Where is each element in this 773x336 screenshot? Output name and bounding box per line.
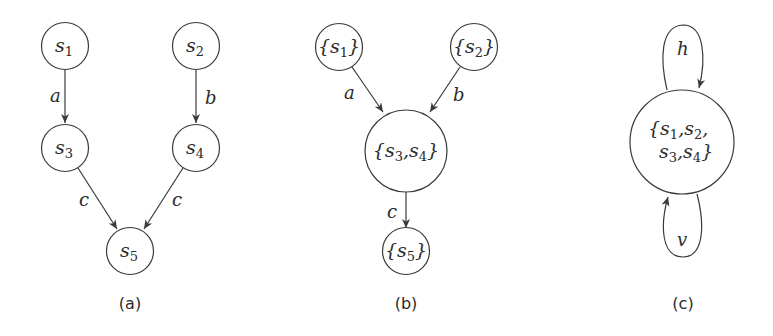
panel-b: a b c {s1} {s2} {s3,s4} {s5} (b) bbox=[316, 24, 498, 314]
node-set-s1-s2-s3-s4: {s1,s2, s3,s4} bbox=[630, 90, 734, 194]
node-set-s2: {s2} bbox=[451, 24, 498, 71]
node-s2: s2 bbox=[173, 23, 220, 70]
edge-label-c-left: c bbox=[79, 189, 89, 210]
node-set-s1: {s1} bbox=[316, 24, 363, 71]
edge-label-a: a bbox=[344, 82, 355, 103]
svg-text:{s2}: {s2} bbox=[453, 35, 495, 60]
svg-text:{s3,s4}: {s3,s4} bbox=[373, 139, 439, 164]
edge-label-b: b bbox=[453, 84, 465, 105]
node-s4: s4 bbox=[173, 125, 220, 172]
svg-text:{s5}: {s5} bbox=[385, 239, 427, 264]
edge-label-c: c bbox=[387, 201, 397, 222]
caption-a: (a) bbox=[119, 294, 141, 313]
node-set-s5: {s5} bbox=[383, 228, 430, 275]
node-s5: s5 bbox=[107, 228, 154, 275]
edge-s1set-s34set bbox=[352, 67, 383, 112]
panel-a: a b c c s1 s2 s3 s4 s5 (a) bbox=[42, 23, 220, 314]
caption-b: (b) bbox=[395, 294, 418, 313]
edge-label-a: a bbox=[50, 85, 61, 106]
edge-label-v: v bbox=[677, 229, 687, 250]
edge-label-h: h bbox=[677, 38, 689, 59]
panel-c: h v {s1,s2, s3,s4} (c) bbox=[630, 25, 734, 313]
caption-c: (c) bbox=[672, 294, 693, 313]
svg-text:s3,s4}: s3,s4} bbox=[659, 140, 713, 165]
svg-text:{s1}: {s1} bbox=[318, 35, 360, 60]
node-s1: s1 bbox=[42, 23, 89, 70]
node-s3: s3 bbox=[42, 125, 89, 172]
node-set-s3-s4: {s3,s4} bbox=[365, 110, 447, 192]
edge-label-b: b bbox=[205, 87, 217, 108]
edge-label-c-right: c bbox=[172, 189, 182, 210]
diagram-canvas: a b c c s1 s2 s3 s4 s5 (a) bbox=[0, 0, 773, 336]
